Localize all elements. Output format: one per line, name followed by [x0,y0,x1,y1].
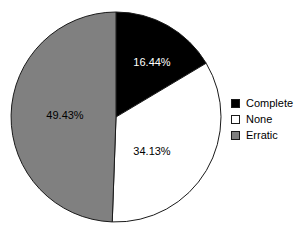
legend-item-label: None [246,114,272,125]
pie-slice-label-erratic: 49.43% [46,109,84,121]
legend-item-none[interactable]: None [231,111,305,127]
legend-swatch-icon-none [231,115,240,124]
pie-chart: 16.44%34.13%49.43% CompleteNoneErratic [0,0,306,233]
legend-item-label: Erratic [246,130,278,141]
legend-swatch-icon-erratic [231,131,240,140]
legend-item-erratic[interactable]: Erratic [231,127,305,143]
chart-legend: CompleteNoneErratic [231,95,305,143]
legend-item-label: Complete [246,98,293,109]
pie-slice-label-complete: 16.44% [133,56,171,68]
legend-item-complete[interactable]: Complete [231,95,305,111]
legend-swatch-icon-complete [231,99,240,108]
pie-slice-group [11,12,221,222]
pie-slice-label-none: 34.13% [133,145,171,157]
